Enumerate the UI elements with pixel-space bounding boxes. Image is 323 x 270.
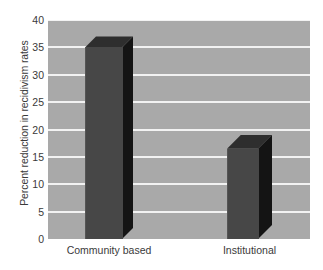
y-tick-label: 35: [24, 42, 44, 52]
y-axis-tick-labels: 0510152025303540: [24, 20, 44, 239]
bar-front-face: [227, 149, 259, 239]
y-tick-label: 30: [24, 70, 44, 80]
bar: [85, 36, 133, 239]
bar-chart-figure: Percent reduction in recidivism rates 05…: [0, 0, 323, 270]
bar-side-face: [122, 36, 133, 239]
bar-front-face: [85, 47, 123, 239]
y-tick-label: 15: [24, 152, 44, 162]
bar-side-face: [258, 135, 272, 239]
x-tick-label: Community based: [67, 243, 152, 257]
y-tick-label: 20: [24, 125, 44, 135]
x-tick-label: Institutional: [223, 243, 276, 257]
plot-area: [48, 20, 310, 239]
y-tick-label: 5: [24, 207, 44, 217]
gridline: [48, 20, 310, 21]
x-axis-tick-labels: Community basedInstitutional: [48, 243, 310, 259]
y-tick-label: 10: [24, 179, 44, 189]
y-tick-label: 0: [24, 234, 44, 244]
bar: [227, 135, 272, 239]
y-tick-label: 25: [24, 97, 44, 107]
y-tick-label: 40: [24, 15, 44, 25]
